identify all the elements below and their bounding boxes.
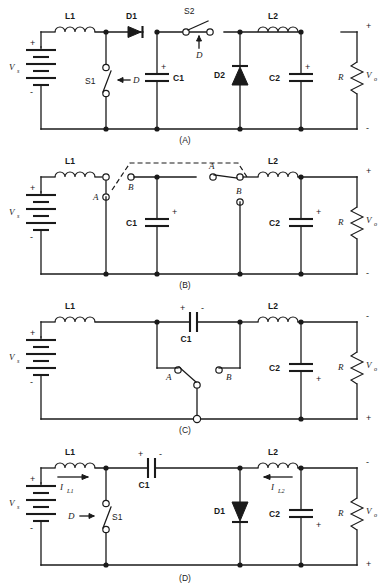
voltage-source-vs: + - V s — [9, 328, 56, 419]
load-resistor-r: R V o - + — [337, 311, 377, 423]
switch-s1-label: S1 — [112, 512, 123, 522]
current-il2-label: I — [270, 482, 275, 492]
load-label: R — [337, 362, 344, 372]
load-label: R — [337, 217, 344, 227]
source-label-sub: s — [17, 503, 20, 510]
circuit-panel-c: + - V s L1 + - C1 A B L2 — [0, 290, 385, 437]
c1-minus-sign: - — [159, 449, 162, 459]
output-label-sub: o — [374, 75, 377, 82]
inductor-l1-label: L1 — [65, 301, 75, 311]
source-label-sub: s — [17, 67, 20, 74]
spdt-label-b: B — [226, 372, 232, 382]
diode-d1-label: D1 — [214, 506, 225, 516]
junction-dot — [298, 562, 303, 567]
c2-plus-sign: + — [316, 207, 321, 217]
c2-plus-sign: + — [305, 62, 310, 72]
circuit-panel-a: + - V s L1 S1 D D1 + C1 — [0, 0, 385, 147]
figure-sheet: + - V s L1 S1 D D1 + C1 — [0, 0, 385, 588]
switch-s1[interactable]: S1 D — [85, 64, 140, 96]
capacitor-c1: + C1 — [145, 32, 184, 129]
spdt-bottom-terminal — [193, 415, 200, 422]
inductor-l2-label: L2 — [268, 301, 278, 311]
capacitor-c2: + C2 — [269, 468, 321, 565]
load-resistor-r: R V o - + — [337, 457, 377, 569]
spdt-left-label-b: B — [128, 182, 134, 192]
duty-label-right: D — [195, 50, 203, 60]
output-plus-sign: + — [366, 413, 371, 423]
inductor-l2-label: L2 — [268, 11, 278, 21]
output-label: V — [366, 70, 373, 80]
circuit-panel-b: + - V s L1 A B + C1 A B — [0, 145, 385, 292]
switch-s2[interactable]: S2 D — [183, 6, 213, 60]
panel-a-caption: (A) — [179, 135, 191, 145]
inductor-l2: L2 — [258, 11, 298, 32]
source-plus-sign: + — [30, 38, 35, 48]
spdt-switch-left[interactable]: A B — [92, 163, 247, 274]
current-il1-label-sub: L1 — [66, 487, 74, 494]
junction-dot — [103, 562, 108, 567]
diode-d1: D1 — [214, 468, 248, 565]
panel-b-caption: (B) — [179, 280, 191, 290]
output-plus-sign: + — [366, 559, 371, 569]
switch-s1-label: S1 — [85, 76, 96, 86]
capacitor-c2-label: C2 — [269, 218, 280, 228]
output-label-sub: o — [374, 220, 377, 227]
circuit-panel-d: + - V s L1 I L1 S1 D + - C1 — [0, 436, 385, 588]
capacitor-c1: + C1 — [126, 177, 177, 274]
duty-arrow-d2-icon — [197, 36, 202, 48]
output-plus-sign: + — [366, 166, 371, 176]
capacitor-c1-series: + - C1 — [138, 449, 240, 490]
capacitor-c2-label: C2 — [269, 73, 280, 83]
junction-dot — [237, 562, 242, 567]
c2-plus-sign: + — [316, 374, 321, 384]
capacitor-c1-label: C1 — [173, 73, 184, 83]
capacitor-c2-label: C2 — [269, 363, 280, 373]
switch-s1-terminal-top — [103, 64, 109, 70]
c1-plus-sign: + — [161, 62, 166, 72]
output-label-sub: o — [374, 365, 377, 372]
source-label-sub: s — [17, 357, 20, 364]
capacitor-c1-series: + - C1 — [157, 303, 240, 344]
junction-dot — [103, 271, 108, 276]
junction-dot — [103, 126, 108, 131]
inductor-l1-label: L1 — [65, 156, 75, 166]
diode-d1: D1 — [126, 11, 143, 38]
capacitor-c1-label: C1 — [126, 218, 137, 228]
spdt-right-label-b: B — [236, 186, 242, 196]
capacitor-c2: + C2 — [269, 322, 321, 419]
inductor-l2: L2 — [258, 447, 298, 468]
c1-minus-sign: - — [201, 303, 204, 313]
junction-dot — [237, 126, 242, 131]
voltage-source-vs: + - V s — [9, 38, 56, 129]
junction-dot — [298, 416, 303, 421]
spdt-left-contact-b — [128, 174, 134, 180]
load-label: R — [337, 508, 344, 518]
spdt-label-a: A — [165, 372, 172, 382]
junction-dot — [298, 271, 303, 276]
inductor-l1: L1 — [55, 156, 95, 177]
output-minus-sign: - — [366, 311, 369, 321]
load-resistor-r: R V o + - — [337, 166, 377, 278]
switch-s2-label: S2 — [184, 6, 195, 16]
junction-dot — [154, 271, 159, 276]
inductor-l1: L1 — [55, 447, 95, 468]
c2-plus-sign: + — [316, 520, 321, 530]
current-il1-label: I — [59, 482, 64, 492]
source-minus-sign: - — [30, 377, 33, 387]
inductor-l2: L2 — [258, 301, 298, 322]
panel-d-caption: (D) — [179, 573, 191, 583]
capacitor-c1-label: C1 — [139, 480, 150, 490]
c1-plus-sign: + — [138, 449, 143, 459]
output-minus-sign: - — [366, 457, 369, 467]
output-label: V — [366, 360, 373, 370]
spdt-switch-right[interactable]: A B — [208, 161, 258, 274]
current-arrow-il2-icon: I L2 — [264, 475, 292, 495]
spdt-switch[interactable]: A B — [157, 322, 240, 423]
diode-d2-label: D2 — [214, 70, 225, 80]
switch-s1[interactable]: S1 D — [67, 500, 123, 532]
junction-dot — [298, 126, 303, 131]
inductor-l2: L2 — [258, 156, 298, 177]
source-label: V — [9, 62, 16, 72]
spdt-right-pole-terminal — [237, 174, 243, 180]
c1-plus-sign: + — [180, 303, 185, 313]
